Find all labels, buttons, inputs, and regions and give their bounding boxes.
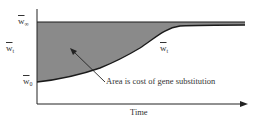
- gene-substitution-diagram: [0, 0, 254, 122]
- x-axis-arrow-icon: [240, 101, 248, 107]
- y-label-w-infinity: w∞: [18, 17, 29, 27]
- curve-label-w-t: wt: [160, 44, 168, 54]
- cost-area: [37, 22, 245, 82]
- y-label-w-0: w0: [23, 77, 33, 87]
- y-label-w-t: wt: [6, 44, 14, 54]
- x-axis-label: Time: [130, 108, 148, 117]
- annotation-text: Area is cost of gene substitution: [106, 77, 215, 86]
